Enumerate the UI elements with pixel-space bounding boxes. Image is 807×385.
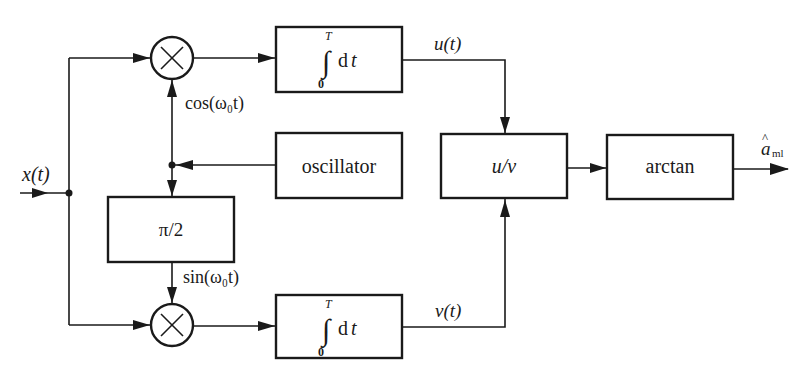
- arrow-head-icon: [167, 80, 177, 97]
- arrow-head-icon: [167, 287, 177, 303]
- arrow-head-icon: [133, 320, 150, 330]
- arctan-block: arctan: [607, 135, 733, 199]
- integrand: dt: [338, 49, 357, 71]
- integral-icon: ∫: [320, 45, 332, 81]
- arrow-head-icon: [590, 163, 606, 173]
- arrow-head-icon: [258, 321, 275, 331]
- arrow-head-icon: [167, 180, 177, 196]
- wire-u: [402, 60, 505, 134]
- phase-shift-label: π/2: [159, 219, 183, 240]
- cos-label: cos(ω₀t): [185, 93, 244, 114]
- output-subscript: ml: [772, 147, 784, 159]
- arrow-head-icon: [500, 200, 510, 217]
- input-arrow-icon: [32, 188, 48, 198]
- integrand: dt: [338, 317, 357, 339]
- output-arrow-icon: [770, 163, 789, 175]
- oscillator-label: oscillator: [302, 155, 377, 177]
- input-label: x(t): [21, 163, 50, 186]
- phase-shift-block: π/2: [108, 197, 234, 262]
- integral-icon: ∫: [320, 313, 332, 349]
- arrow-head-icon: [500, 117, 510, 133]
- bottom-integrator-block: ∫ T 0 dt: [276, 295, 402, 359]
- lower-limit: 0: [318, 77, 324, 91]
- u-label: u(t): [434, 33, 461, 55]
- top-multiplier: [151, 37, 193, 79]
- block-diagram: x(t) oscillator cos(ω₀t) π/2 sin(ω: [0, 0, 807, 385]
- divider-label: u/v: [492, 155, 517, 177]
- output-accent: ^: [762, 130, 768, 145]
- v-label: v(t): [435, 300, 461, 322]
- bottom-multiplier: [151, 304, 193, 346]
- lower-limit: 0: [318, 345, 324, 359]
- arrow-head-icon: [133, 53, 150, 63]
- arctan-label: arctan: [646, 155, 695, 177]
- top-integrator-block: ∫ T 0 dt: [276, 27, 402, 92]
- arrow-head-icon: [258, 53, 275, 63]
- arrow-head-icon: [176, 160, 193, 170]
- divider-block: u/v: [441, 134, 567, 198]
- oscillator-block: oscillator: [276, 133, 402, 198]
- sin-label: sin(ω₀t): [183, 267, 239, 288]
- output-signal: a ^ ml: [733, 130, 789, 175]
- input-signal: x(t): [20, 163, 73, 198]
